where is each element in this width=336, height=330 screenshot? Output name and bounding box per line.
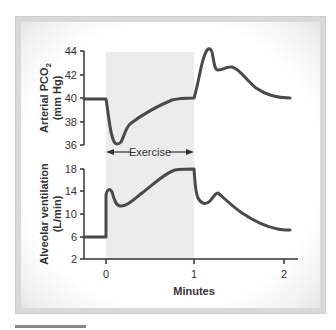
- bottom-ytick-18: 18: [65, 163, 77, 175]
- top-ytick-36: 36: [65, 139, 77, 151]
- x-tick-labels: 0 1 2: [103, 268, 287, 280]
- bottom-ylabel-text: Alveolar ventilation: [38, 163, 50, 265]
- xtick-1: 1: [191, 268, 197, 280]
- xtick-2: 2: [281, 268, 287, 280]
- bottom-y-axis: [80, 169, 84, 259]
- top-ytick-38: 38: [65, 116, 77, 128]
- x-axis: [84, 259, 298, 264]
- top-ylabel-subscript: 2: [44, 63, 53, 68]
- bottom-y-axis-title: Alveolar ventilation (L/min): [38, 163, 63, 265]
- x-axis-title: Minutes: [173, 285, 215, 297]
- bottom-ylabel-units: (L/min): [51, 195, 63, 232]
- exercise-ventilation-chart: 44 42 40 38 36 Arterial PCO2 (mm Hg) Exe…: [0, 0, 336, 330]
- top-y-axis-title: Arterial PCO2 (mm Hg): [38, 63, 63, 133]
- top-y-tick-labels: 44 42 40 38 36: [65, 45, 77, 151]
- bottom-ytick-6: 6: [71, 231, 77, 243]
- exercise-label: Exercise: [129, 146, 171, 158]
- bottom-y-tick-labels: 18 14 10 6 2: [65, 163, 77, 265]
- bottom-ytick-14: 14: [65, 185, 77, 197]
- bottom-ytick-2: 2: [71, 253, 77, 265]
- top-ylabel-units: (mm Hg): [51, 75, 63, 120]
- top-ylabel-text: Arterial PCO: [38, 67, 50, 133]
- bottom-ytick-10: 10: [65, 208, 77, 220]
- xtick-0: 0: [103, 268, 109, 280]
- top-ytick-42: 42: [65, 69, 77, 81]
- top-ytick-44: 44: [65, 45, 77, 57]
- top-ytick-40: 40: [65, 92, 77, 104]
